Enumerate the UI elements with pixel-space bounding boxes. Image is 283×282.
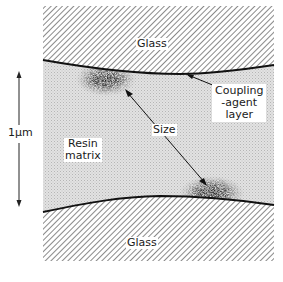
scale-bar-label: 1μm: [8, 127, 33, 139]
scale-arrow-up-icon: [17, 71, 22, 78]
coupling-agent-label: Coupling -agent layer: [212, 84, 266, 122]
resin-matrix-label-line2: matrix: [65, 150, 101, 162]
top-glass-label: Glass: [136, 38, 168, 50]
diagram: Glass Glass Coupling -agent layer Size R…: [0, 0, 283, 282]
coupling-agent-label-line3: layer: [215, 109, 263, 121]
size-label: Size: [152, 124, 177, 136]
resin-matrix-label: Resin matrix: [64, 138, 102, 162]
bottom-glass-label: Glass: [126, 237, 158, 249]
scale-arrow-down-icon: [17, 200, 22, 207]
